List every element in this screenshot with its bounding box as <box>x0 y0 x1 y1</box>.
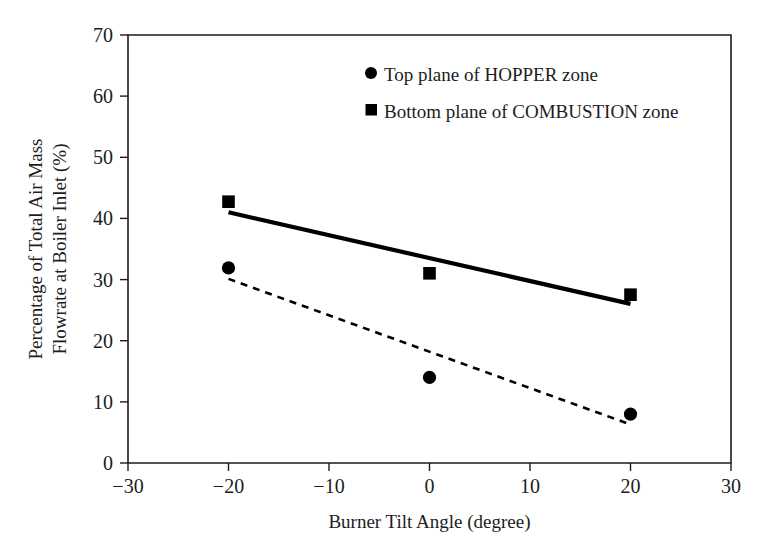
x-axis-tick-labels: −30 −20 −10 0 10 20 30 <box>112 475 741 497</box>
y-axis-ticks <box>120 35 128 463</box>
scatter-chart: 0 10 20 30 40 50 60 70 −30 −20 −10 0 10 … <box>0 0 772 554</box>
legend-circle-marker-icon <box>365 67 377 79</box>
data-point-square-20 <box>624 288 637 301</box>
trendline-hopper <box>229 279 631 425</box>
y-tick-label-60: 60 <box>93 85 113 107</box>
legend-square-marker-icon <box>366 104 378 116</box>
data-point-circle-0 <box>423 371 436 384</box>
x-tick-label-0: 0 <box>425 475 435 497</box>
x-tick-label-neg30: −30 <box>112 475 143 497</box>
y-tick-label-70: 70 <box>93 24 113 46</box>
y-axis-title: Percentage of Total Air Mass Flowrate at… <box>25 139 71 360</box>
y-axis-title-line1: Percentage of Total Air Mass <box>25 139 46 360</box>
y-tick-label-20: 20 <box>93 330 113 352</box>
y-tick-label-40: 40 <box>93 207 113 229</box>
y-axis-tick-labels: 0 10 20 30 40 50 60 70 <box>93 24 113 474</box>
y-axis-title-line2: Flowrate at Boiler Inlet (%) <box>49 143 71 354</box>
chart-page: 0 10 20 30 40 50 60 70 −30 −20 −10 0 10 … <box>0 0 772 554</box>
data-point-circle-20 <box>624 408 637 421</box>
trendline-combustion <box>229 212 631 304</box>
x-tick-label-neg20: −20 <box>213 475 244 497</box>
y-tick-label-10: 10 <box>93 391 113 413</box>
y-tick-label-0: 0 <box>103 452 113 474</box>
data-point-square-neg20 <box>222 195 235 208</box>
x-tick-label-20: 20 <box>621 475 641 497</box>
data-point-square-0 <box>423 267 436 280</box>
legend-label-hopper: Top plane of HOPPER zone <box>384 64 598 85</box>
x-axis-title: Burner Tilt Angle (degree) <box>328 511 530 533</box>
x-tick-label-30: 30 <box>721 475 741 497</box>
series-hopper-markers <box>222 261 637 420</box>
legend-label-combustion: Bottom plane of COMBUSTION zone <box>384 101 678 122</box>
x-tick-label-10: 10 <box>520 475 540 497</box>
data-point-circle-neg20 <box>222 261 235 274</box>
y-tick-label-30: 30 <box>93 269 113 291</box>
x-tick-label-neg10: −10 <box>313 475 344 497</box>
plot-frame <box>128 35 731 463</box>
series-combustion-markers <box>222 195 637 301</box>
x-axis-ticks <box>128 463 731 471</box>
chart-legend: Top plane of HOPPER zone Bottom plane of… <box>365 64 678 122</box>
y-tick-label-50: 50 <box>93 146 113 168</box>
